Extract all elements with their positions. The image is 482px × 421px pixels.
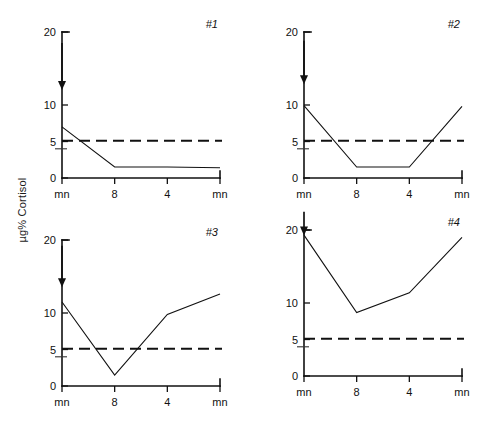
x-tick-label: mn [212,396,227,408]
y-tick-label: 0 [292,172,298,184]
x-tick-label: 4 [164,396,170,408]
y-tick-label: 5 [292,136,298,148]
y-tick-label: 20 [286,224,298,236]
x-tick-label: mn [296,386,311,398]
data-series-line [62,294,220,375]
x-tick-label: mn [454,386,469,398]
stimulus-arrow-icon [58,43,66,90]
panel-1-plot: 051020mn84mn#1 [30,10,230,205]
panel-3-plot: 051020mn84mn#3 [30,218,230,413]
panel-4: 051020mn84mn#4 [272,208,472,403]
stimulus-arrow-icon [58,246,66,287]
x-tick-label: 4 [406,188,412,200]
y-tick-label: 0 [292,370,298,382]
y-tick-label: 20 [286,26,298,38]
y-tick-label: 10 [286,99,298,111]
data-series-line [62,127,220,168]
y-axis-title: µg% Cortisol [2,0,14,135]
y-tick-label: 5 [50,344,56,356]
panel-tag: #3 [206,226,219,238]
y-tick-label: 5 [292,334,298,346]
x-tick-label: 8 [112,396,118,408]
y-tick-label: 10 [44,307,56,319]
panel-3: 051020mn84mn#3 [30,218,230,413]
x-tick-label: 8 [112,188,118,200]
panel-4-plot: 051020mn84mn#4 [272,208,472,403]
x-tick-label: 4 [164,188,170,200]
panel-2: 051020mn84mn#2 [272,10,472,205]
panel-2-plot: 051020mn84mn#2 [272,10,472,205]
y-tick-label: 20 [44,234,56,246]
y-tick-label: 10 [286,297,298,309]
stimulus-arrow-icon [300,41,308,85]
stimulus-arrow-icon [300,212,308,236]
x-tick-label: 4 [406,386,412,398]
x-tick-label: mn [212,188,227,200]
y-tick-label: 10 [44,99,56,111]
y-tick-label: 20 [44,26,56,38]
x-tick-label: mn [54,188,69,200]
x-tick-label: 8 [354,386,360,398]
data-series-line [304,235,462,312]
y-tick-label: 0 [50,172,56,184]
y-tick-label: 0 [50,380,56,392]
panel-tag: #4 [448,216,460,228]
panel-1: 051020mn84mn#1 [30,10,230,205]
data-series-line [304,106,462,167]
panel-tag: #2 [448,18,460,30]
x-tick-label: mn [454,188,469,200]
x-tick-label: mn [296,188,311,200]
cortisol-figure: µg% Cortisol 051020mn84mn#1 051020mn84mn… [0,0,482,421]
y-tick-label: 5 [50,136,56,148]
y-axis-title-text: µg% Cortisol [16,135,28,285]
panel-tag: #1 [206,18,218,30]
x-tick-label: mn [54,396,69,408]
x-tick-label: 8 [354,188,360,200]
